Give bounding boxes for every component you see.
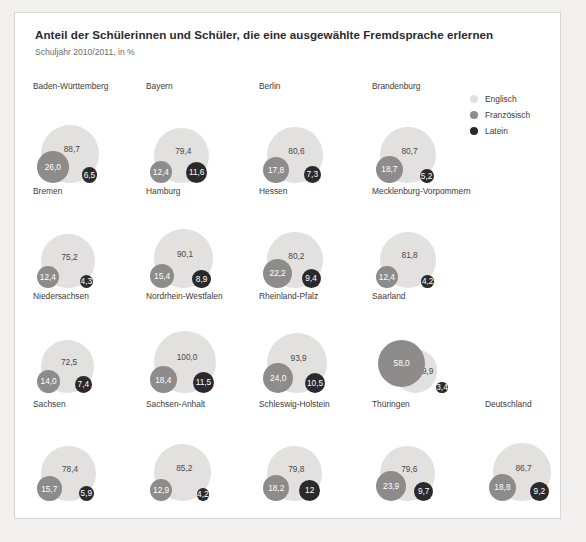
bubble-englisch-value: 80,7 bbox=[401, 147, 417, 155]
region-label: Baden-Württemberg bbox=[33, 81, 108, 91]
bubble-plot: 79,818,212 bbox=[259, 413, 367, 505]
region-cell: Schleswig-Holstein79,818,212 bbox=[259, 399, 367, 507]
region-cell: Brandenburg80,718,75,2 bbox=[372, 81, 480, 189]
region-label: Hamburg bbox=[146, 186, 180, 196]
bubble-franzoesisch: 18,7 bbox=[376, 156, 403, 183]
bubble-franzoesisch: 17,8 bbox=[263, 157, 289, 183]
bubble-franzoesisch-value: 26,0 bbox=[45, 163, 61, 171]
region-cell: Hamburg90,115,48,9 bbox=[146, 186, 254, 294]
bubble-englisch-value: 88,7 bbox=[64, 145, 80, 153]
region-cell: Berlin80,617,87,3 bbox=[259, 81, 367, 189]
bubble-franzoesisch-value: 15,7 bbox=[41, 485, 57, 493]
bubble-latein-value: 4,3 bbox=[81, 277, 93, 285]
bubble-franzoesisch-value: 12,9 bbox=[153, 486, 169, 494]
bubble-plot: 80,617,87,3 bbox=[259, 95, 367, 187]
bubble-latein: 11,5 bbox=[193, 372, 214, 393]
bubble-plot: 86,718,89,2 bbox=[485, 413, 586, 505]
bubble-englisch-value: 75,2 bbox=[61, 253, 77, 261]
bubble-englisch-value: 90,1 bbox=[177, 250, 193, 258]
bubble-englisch-value: 79,4 bbox=[175, 147, 191, 155]
bubble-latein: 4,3 bbox=[80, 275, 93, 288]
bubble-franzoesisch: 15,7 bbox=[37, 476, 62, 501]
region-cell: Bremen75,212,44,3 bbox=[33, 186, 141, 294]
region-cell: Nordrhein-Westfalen100,018,411,5 bbox=[146, 291, 254, 399]
bubble-latein: 4,2 bbox=[197, 488, 210, 501]
bubble-englisch-value: 86,7 bbox=[515, 463, 531, 471]
bubble-latein-value: 7,4 bbox=[78, 380, 90, 388]
bubble-latein: 4,2 bbox=[421, 275, 434, 288]
region-label: Bremen bbox=[33, 186, 62, 196]
bubble-franzoesisch-value: 18,8 bbox=[494, 483, 510, 491]
bubble-englisch-value: 81,8 bbox=[402, 251, 418, 259]
region-cell: Sachsen-Anhalt85,212,94,2 bbox=[146, 399, 254, 507]
bubble-plot: 80,718,75,2 bbox=[372, 95, 480, 187]
bubble-franzoesisch-value: 18,2 bbox=[268, 484, 284, 492]
bubble-latein-value: 4,2 bbox=[422, 277, 434, 285]
region-cell: Thüringen79,623,99,7 bbox=[372, 399, 480, 507]
bubble-latein: 6,5 bbox=[82, 167, 98, 183]
region-label: Bayern bbox=[146, 81, 173, 91]
bubble-latein: 11,6 bbox=[186, 162, 207, 183]
bubble-latein: 3,4 bbox=[436, 382, 447, 393]
bubble-franzoesisch-value: 18,7 bbox=[381, 165, 397, 173]
bubble-englisch-value: 79,8 bbox=[288, 465, 304, 473]
bubble-latein-value: 5,9 bbox=[81, 489, 93, 497]
region-label: Deutschland bbox=[485, 399, 532, 409]
region-label: Brandenburg bbox=[372, 81, 420, 91]
bubble-latein: 5,2 bbox=[420, 169, 434, 183]
bubble-plot: 78,415,75,9 bbox=[33, 413, 141, 505]
bubble-latein: 5,9 bbox=[79, 486, 94, 501]
bubble-latein: 7,3 bbox=[304, 166, 321, 183]
bubble-franzoesisch-value: 12,4 bbox=[40, 273, 56, 281]
bubble-franzoesisch: 58,0 bbox=[378, 340, 425, 387]
bubble-englisch-value: 79,6 bbox=[401, 465, 417, 473]
bubble-latein-value: 6,5 bbox=[84, 171, 96, 179]
page-subtitle: Schuljahr 2010/2011, in % bbox=[35, 47, 540, 58]
region-label: Rheinland-Pfalz bbox=[259, 291, 318, 301]
bubble-latein: 9,7 bbox=[414, 482, 433, 501]
region-label: Nordrhein-Westfalen bbox=[146, 291, 223, 301]
bubble-plot: 100,018,411,5 bbox=[146, 305, 254, 397]
bubble-latein-value: 4,2 bbox=[197, 490, 209, 498]
region-cell: Rheinland-Pfalz93,924,010,5 bbox=[259, 291, 367, 399]
region-label: Sachsen bbox=[33, 399, 66, 409]
region-label: Hessen bbox=[259, 186, 287, 196]
bubble-latein-value: 9,7 bbox=[418, 487, 430, 495]
bubble-latein-value: 3,4 bbox=[436, 383, 448, 391]
small-multiples-grid: Baden-Württemberg88,726,06,5Bayern79,412… bbox=[33, 81, 549, 513]
bubble-plot: 80,222,29,4 bbox=[259, 200, 367, 292]
bubble-latein-value: 12 bbox=[305, 486, 314, 494]
bubble-latein-value: 9,4 bbox=[305, 274, 317, 282]
bubble-plot: 93,924,010,5 bbox=[259, 305, 367, 397]
bubble-franzoesisch-value: 58,0 bbox=[394, 359, 410, 367]
region-cell: Bayern79,412,411,6 bbox=[146, 81, 254, 189]
region-cell: Baden-Württemberg88,726,06,5 bbox=[33, 81, 141, 189]
bubble-franzoesisch: 12,4 bbox=[376, 266, 398, 288]
bubble-latein: 9,2 bbox=[530, 482, 549, 501]
bubble-plot: 72,514,07,4 bbox=[33, 305, 141, 397]
region-cell: Niedersachsen72,514,07,4 bbox=[33, 291, 141, 399]
region-label: Sachsen-Anhalt bbox=[146, 399, 205, 409]
bubble-franzoesisch-value: 17,8 bbox=[268, 166, 284, 174]
bubble-latein: 7,4 bbox=[75, 376, 92, 393]
region-label: Niedersachsen bbox=[33, 291, 89, 301]
bubble-franzoesisch-value: 12,4 bbox=[153, 168, 169, 176]
bubble-latein-value: 7,3 bbox=[307, 170, 319, 178]
bubble-latein-value: 5,2 bbox=[421, 172, 433, 180]
bubble-latein: 8,9 bbox=[192, 270, 210, 288]
bubble-plot: 79,623,99,7 bbox=[372, 413, 480, 505]
bubble-franzoesisch: 26,0 bbox=[37, 151, 69, 183]
bubble-plot: 88,726,06,5 bbox=[33, 95, 141, 187]
region-cell: Deutschland86,718,89,2 bbox=[485, 399, 586, 507]
bubble-franzoesisch-value: 22,2 bbox=[270, 269, 286, 277]
bubble-englisch-value: 72,5 bbox=[61, 358, 77, 366]
bubble-franzoesisch: 12,4 bbox=[37, 266, 59, 288]
bubble-englisch-value: 80,6 bbox=[288, 147, 304, 155]
bubble-englisch-value: 85,2 bbox=[176, 464, 192, 472]
bubble-plot: 90,115,48,9 bbox=[146, 200, 254, 292]
bubble-latein-value: 8,9 bbox=[196, 275, 208, 283]
bubble-englisch-value: 78,4 bbox=[62, 465, 78, 473]
bubble-franzoesisch: 23,9 bbox=[376, 471, 406, 501]
bubble-franzoesisch-value: 15,4 bbox=[154, 272, 170, 280]
region-cell: Hessen80,222,29,4 bbox=[259, 186, 367, 294]
